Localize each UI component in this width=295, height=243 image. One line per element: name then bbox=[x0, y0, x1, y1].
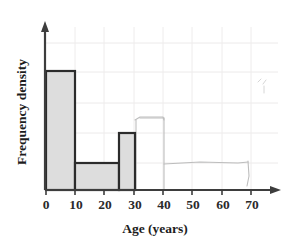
bar-0-10[interactable] bbox=[46, 71, 75, 190]
x-tick-label-10: 10 bbox=[69, 197, 83, 212]
x-tick-label-30: 30 bbox=[128, 197, 142, 212]
y-axis-title: Frequency density bbox=[14, 59, 29, 165]
x-tick-label-20: 20 bbox=[98, 197, 112, 212]
x-tick-label-0: 0 bbox=[43, 197, 50, 212]
x-axis-arrow-icon bbox=[270, 186, 281, 194]
x-tick-label-60: 60 bbox=[216, 197, 230, 212]
bar-25-30[interactable] bbox=[119, 133, 135, 190]
y-axis-arrow-icon bbox=[41, 21, 49, 32]
bars-group bbox=[46, 71, 135, 190]
x-axis-title: Age (years) bbox=[122, 221, 188, 236]
x-tick-label-50: 50 bbox=[186, 197, 200, 212]
x-tick-label-70: 70 bbox=[245, 197, 259, 212]
sketch-scribble-top-right bbox=[258, 79, 266, 93]
grid-horizontal-group bbox=[46, 43, 278, 163]
sketch-annotations-group bbox=[135, 79, 266, 190]
bar-10-25[interactable] bbox=[75, 163, 119, 190]
chart-canvas: 0 10 20 30 40 50 60 70 Age (years) Frequ… bbox=[0, 0, 295, 243]
histogram-chart: 0 10 20 30 40 50 60 70 Age (years) Frequ… bbox=[0, 0, 295, 243]
x-tick-labels-group: 0 10 20 30 40 50 60 70 bbox=[43, 197, 259, 212]
sketch-vertical-70 bbox=[247, 161, 249, 186]
x-tick-label-40: 40 bbox=[157, 197, 171, 212]
